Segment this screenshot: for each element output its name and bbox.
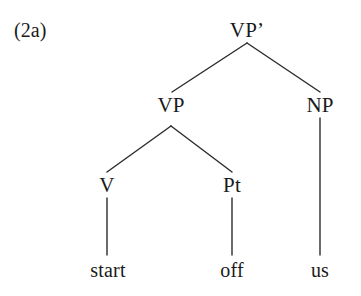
syntax-tree-figure: (2a) VP’ VP NP V Pt start off us [0, 0, 361, 296]
node-v: V [99, 175, 114, 196]
node-vp: VP [157, 95, 184, 116]
edge-root-to-vp [172, 43, 247, 92]
leaf-start: start [90, 260, 125, 280]
leaf-us: us [311, 260, 329, 280]
node-vp-bar: VP’ [230, 20, 264, 41]
node-np: NP [306, 95, 333, 116]
node-pt: Pt [223, 175, 241, 196]
leaf-off: off [220, 260, 244, 280]
example-number-label: (2a) [14, 20, 47, 40]
edge-vp-to-pt [171, 126, 232, 172]
edge-root-to-np [247, 43, 320, 92]
edge-vp-to-v [107, 126, 171, 172]
tree-edges [0, 0, 361, 296]
